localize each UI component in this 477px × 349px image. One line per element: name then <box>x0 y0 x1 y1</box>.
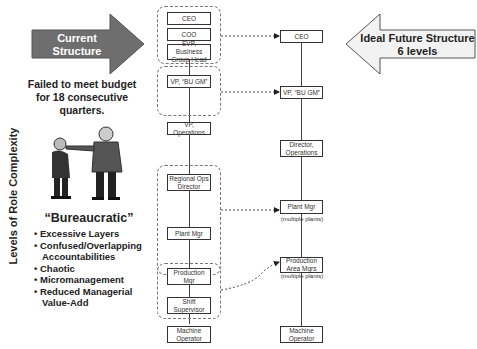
future-structure-label: Ideal Future Structure 6 levels <box>360 32 475 58</box>
future-structure-title: Ideal Future Structure <box>360 32 475 45</box>
future-note-plant-mgr: (multiple plants) <box>272 216 332 222</box>
future-structure-levels: 6 levels <box>360 45 475 58</box>
future-note-production-area-mgrs: (multiple plants) <box>272 273 332 279</box>
future-box-vp-bu-gm: VP, “BU GM” <box>280 86 323 99</box>
future-box-plant-mgr: Plant Mgr <box>280 200 323 214</box>
future-box-production-area-mgrs: Production Area Mgrs <box>280 257 323 273</box>
future-box-ceo: CEO <box>280 30 323 43</box>
future-box-director-operations: Director, Operations <box>280 140 323 157</box>
future-box-machine-operator: Machine Operator <box>280 326 323 343</box>
